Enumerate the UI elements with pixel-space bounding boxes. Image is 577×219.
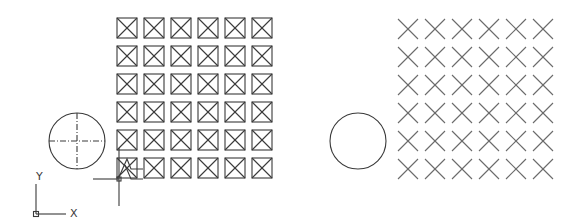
boxed-x-marker[interactable] <box>171 18 191 38</box>
x-marker[interactable] <box>533 103 553 123</box>
x-marker[interactable] <box>533 75 553 95</box>
x-marker[interactable] <box>398 75 418 95</box>
boxed-x-marker[interactable] <box>252 18 272 38</box>
ucs-x-axis-label: X <box>70 208 78 219</box>
boxed-x-marker[interactable] <box>225 158 245 178</box>
boxed-x-marker[interactable] <box>117 46 137 66</box>
boxed-x-marker[interactable] <box>225 130 245 150</box>
cursor-trail <box>119 159 143 177</box>
x-marker[interactable] <box>398 47 418 67</box>
x-marker[interactable] <box>452 75 472 95</box>
ucs-axis-icon <box>34 184 67 217</box>
boxed-x-marker[interactable] <box>198 130 218 150</box>
boxed-x-marker[interactable] <box>171 158 191 178</box>
boxed-x-marker[interactable] <box>198 74 218 94</box>
cad-drawing-canvas[interactable] <box>0 0 577 219</box>
boxed-x-marker[interactable] <box>225 74 245 94</box>
boxed-x-marker[interactable] <box>144 74 164 94</box>
x-marker[interactable] <box>533 131 553 151</box>
boxed-x-marker[interactable] <box>144 130 164 150</box>
boxed-x-marker[interactable] <box>171 46 191 66</box>
boxed-x-marker-array[interactable] <box>117 18 272 178</box>
x-marker[interactable] <box>425 75 445 95</box>
x-marker[interactable] <box>425 103 445 123</box>
boxed-x-marker[interactable] <box>144 46 164 66</box>
boxed-x-marker[interactable] <box>225 18 245 38</box>
boxed-x-marker[interactable] <box>144 18 164 38</box>
boxed-x-marker[interactable] <box>117 74 137 94</box>
boxed-x-marker[interactable] <box>225 46 245 66</box>
plain-circle[interactable] <box>330 113 386 169</box>
boxed-x-marker[interactable] <box>198 102 218 122</box>
x-marker[interactable] <box>452 19 472 39</box>
x-marker[interactable] <box>533 19 553 39</box>
boxed-x-marker[interactable] <box>198 18 218 38</box>
x-marker[interactable] <box>452 159 472 179</box>
boxed-x-marker[interactable] <box>171 130 191 150</box>
x-marker[interactable] <box>425 19 445 39</box>
x-marker[interactable] <box>506 19 526 39</box>
x-marker[interactable] <box>533 47 553 67</box>
x-marker[interactable] <box>479 159 499 179</box>
x-marker[interactable] <box>506 47 526 67</box>
x-marker[interactable] <box>452 103 472 123</box>
circle-with-centerlines[interactable] <box>49 113 105 169</box>
x-marker[interactable] <box>452 131 472 151</box>
boxed-x-marker[interactable] <box>117 18 137 38</box>
x-marker[interactable] <box>479 19 499 39</box>
x-marker[interactable] <box>506 159 526 179</box>
circle-outline[interactable] <box>330 113 386 169</box>
boxed-x-marker[interactable] <box>198 158 218 178</box>
boxed-x-marker[interactable] <box>117 130 137 150</box>
boxed-x-marker[interactable] <box>252 46 272 66</box>
boxed-x-marker[interactable] <box>252 158 272 178</box>
x-marker[interactable] <box>506 75 526 95</box>
x-marker[interactable] <box>398 159 418 179</box>
x-marker-array[interactable] <box>398 19 553 179</box>
boxed-x-marker[interactable] <box>144 158 164 178</box>
x-marker[interactable] <box>425 159 445 179</box>
x-marker[interactable] <box>479 103 499 123</box>
boxed-x-marker[interactable] <box>117 102 137 122</box>
ucs-y-axis-label: Y <box>36 171 43 182</box>
x-marker[interactable] <box>479 47 499 67</box>
boxed-x-marker[interactable] <box>171 74 191 94</box>
x-marker[interactable] <box>479 131 499 151</box>
x-marker[interactable] <box>398 103 418 123</box>
boxed-x-marker[interactable] <box>198 46 218 66</box>
boxed-x-marker[interactable] <box>225 102 245 122</box>
x-marker[interactable] <box>452 47 472 67</box>
boxed-x-marker[interactable] <box>252 102 272 122</box>
x-marker[interactable] <box>479 75 499 95</box>
x-marker[interactable] <box>425 47 445 67</box>
x-marker[interactable] <box>533 159 553 179</box>
boxed-x-marker[interactable] <box>252 74 272 94</box>
boxed-x-marker[interactable] <box>252 130 272 150</box>
x-marker[interactable] <box>506 131 526 151</box>
boxed-x-marker[interactable] <box>171 102 191 122</box>
boxed-x-marker[interactable] <box>144 102 164 122</box>
x-marker[interactable] <box>506 103 526 123</box>
x-marker[interactable] <box>398 19 418 39</box>
x-marker[interactable] <box>425 131 445 151</box>
x-marker[interactable] <box>398 131 418 151</box>
